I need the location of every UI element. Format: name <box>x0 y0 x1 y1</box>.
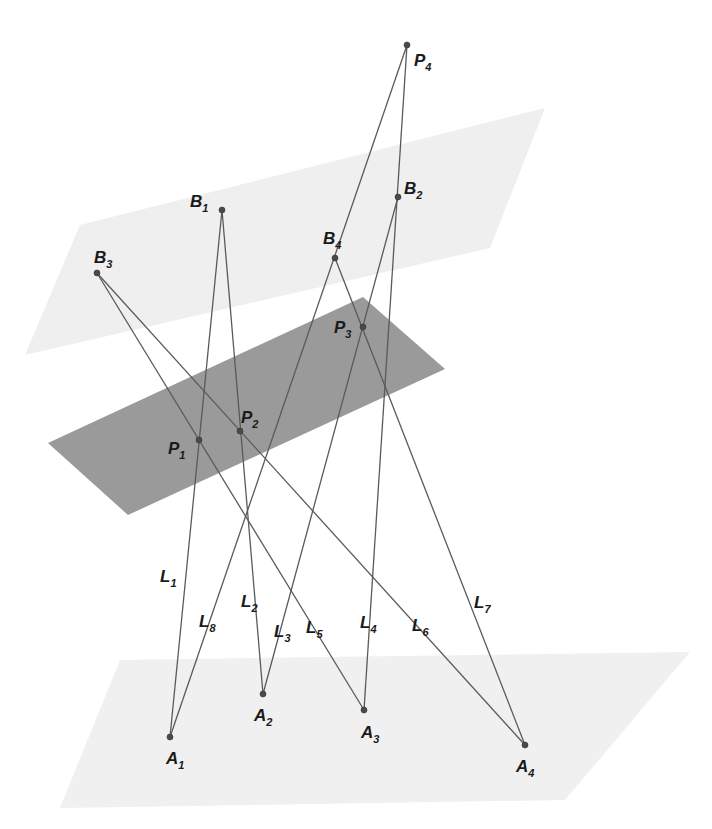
upper-plane <box>25 108 545 355</box>
line-label-l8-subscript: 8 <box>209 622 216 634</box>
line-label-l6: L6 <box>412 616 429 638</box>
point-b2-dot <box>395 194 401 200</box>
point-label-b4-subscript: 4 <box>334 239 341 251</box>
point-label-a2-letter: A <box>253 706 266 725</box>
point-label-a1-subscript: 1 <box>178 759 184 771</box>
point-label-p4-subscript: 4 <box>424 61 431 73</box>
point-label-p1-subscript: 1 <box>179 449 185 461</box>
line-label-l1-letter: L <box>160 567 170 586</box>
line-label-l5-letter: L <box>306 618 316 637</box>
line-label-l6-letter: L <box>412 616 422 635</box>
lower-plane <box>60 652 690 808</box>
point-a1-dot <box>167 734 173 740</box>
line-label-l8-letter: L <box>199 612 209 631</box>
point-a3-dot <box>361 707 367 713</box>
point-label-p4: P4 <box>414 51 431 73</box>
point-label-p4-letter: P <box>414 51 426 70</box>
line-label-l3-letter: L <box>274 622 284 641</box>
geometry-diagram: P4B1B2B3B4P3P1P2A1A2A3A4 L1L2L3L4L5L6L7L… <box>0 0 712 829</box>
point-p2-dot <box>237 428 243 434</box>
line-label-l3: L3 <box>274 622 291 644</box>
point-p1-dot <box>196 437 202 443</box>
point-label-a4-letter: A <box>515 757 528 776</box>
point-label-p2-subscript: 2 <box>251 418 258 430</box>
line-label-l1-subscript: 1 <box>170 577 176 589</box>
point-label-p3-letter: P <box>334 318 346 337</box>
line-label-l4-subscript: 4 <box>369 623 376 635</box>
line-label-l3-subscript: 3 <box>284 632 290 644</box>
point-label-b4-letter: B <box>323 229 335 248</box>
line-label-l1: L1 <box>160 567 177 589</box>
point-label-a3-letter: A <box>360 723 373 742</box>
line-label-l7: L7 <box>474 593 491 615</box>
point-b3-dot <box>94 270 100 276</box>
point-label-b2-subscript: 2 <box>415 189 422 201</box>
point-label-a4-subscript: 4 <box>527 767 534 779</box>
point-label-p2-letter: P <box>241 408 253 427</box>
line-label-l6-subscript: 6 <box>422 626 429 638</box>
line-label-l7-letter: L <box>474 593 484 612</box>
line-label-l5-subscript: 5 <box>316 628 323 640</box>
line-label-l4-letter: L <box>360 613 370 632</box>
point-a4-dot <box>522 742 528 748</box>
line-label-l4: L4 <box>360 613 377 635</box>
point-p4-dot <box>404 42 410 48</box>
planes-group <box>25 108 690 808</box>
line-label-l5: L5 <box>306 618 323 640</box>
point-label-b3-letter: B <box>94 248 106 267</box>
point-label-p3-subscript: 3 <box>345 328 351 340</box>
line-label-l8: L8 <box>199 612 216 634</box>
point-label-b2-letter: B <box>404 179 416 198</box>
point-label-a1-letter: A <box>165 749 178 768</box>
point-label-p1-letter: P <box>168 439 180 458</box>
point-label-a3-subscript: 3 <box>373 733 379 745</box>
line-label-l7-subscript: 7 <box>484 603 491 615</box>
point-b1-dot <box>219 207 225 213</box>
point-label-b3-subscript: 3 <box>106 258 112 270</box>
point-label-b1-letter: B <box>190 192 202 211</box>
point-label-a2-subscript: 2 <box>265 716 272 728</box>
point-b4-dot <box>332 255 338 261</box>
point-label-b1-subscript: 1 <box>202 202 208 214</box>
point-p3-dot <box>360 324 366 330</box>
point-a2-dot <box>260 691 266 697</box>
line-label-l2-letter: L <box>241 592 251 611</box>
line-label-l2-subscript: 2 <box>250 602 257 614</box>
line-labels-group: L1L2L3L4L5L6L7L8 <box>160 567 491 644</box>
